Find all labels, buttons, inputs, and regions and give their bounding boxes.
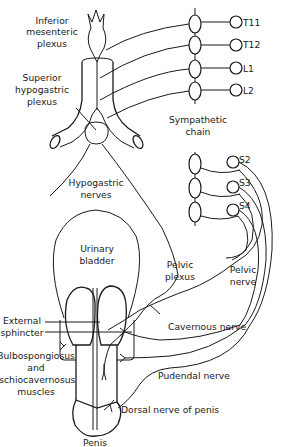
label-L1: L1 <box>243 63 254 74</box>
label-T11: T11 <box>242 17 260 28</box>
sympathetic-chain-upper <box>100 8 242 118</box>
label-urinary-bladder-1: Urinary <box>80 243 114 254</box>
label-bulbospongiosus-4: muscles <box>17 386 55 397</box>
label-bulbospongiosus-2: and <box>27 362 44 373</box>
label-hypogastric-nerves-2: nerves <box>80 189 111 200</box>
label-pelvic-nerve-1: Pelvic <box>230 264 256 275</box>
label-sympathetic-chain-2: chain <box>186 126 211 137</box>
label-bulbospongiosus-1: Bulbospongiosus <box>0 350 75 361</box>
pelvic-plexus-and-nerves <box>104 262 250 408</box>
label-S2: S2 <box>239 154 251 165</box>
label-inferior-mesenteric-plexus-2: mesenteric <box>26 26 78 37</box>
label-inferior-mesenteric-plexus-1: Inferior <box>35 15 68 26</box>
label-urinary-bladder-2: bladder <box>79 255 114 266</box>
labels: Inferior mesenteric plexus Superior hypo… <box>0 15 260 447</box>
label-pelvic-plexus-2: plexus <box>165 271 195 282</box>
label-superior-hypogastric-plexus-1: Superior <box>23 72 62 83</box>
label-bulbospongiosus-3: ischiocavernosus <box>0 374 76 385</box>
label-sympathetic-chain-1: Sympathetic <box>169 114 227 125</box>
label-hypogastric-nerves-1: Hypogastric <box>68 177 123 188</box>
label-S4: S4 <box>239 200 251 211</box>
label-L2: L2 <box>243 85 254 96</box>
inferior-mesenteric-plexus-shape <box>88 10 106 62</box>
label-pudendal-nerve: Pudendal nerve <box>158 370 230 381</box>
label-superior-hypogastric-plexus-2: hypogastric <box>15 84 69 95</box>
label-external-sphincter-2: sphincter <box>1 327 44 338</box>
label-pelvic-plexus-1: Pelvic <box>167 259 193 270</box>
pelvic-innervation-diagram: Inferior mesenteric plexus Superior hypo… <box>0 0 286 447</box>
aorta-and-iliac-vessels <box>48 58 145 150</box>
label-dorsal-nerve-of-penis: Dorsal nerve of penis <box>121 404 219 415</box>
label-S3: S3 <box>239 177 251 188</box>
label-T12: T12 <box>242 39 260 50</box>
label-cavernous-nerve: Cavernous nerve <box>168 321 246 332</box>
label-inferior-mesenteric-plexus-3: plexus <box>37 38 67 49</box>
sympathetic-chain-sacral <box>189 152 272 325</box>
label-penis: Penis <box>83 437 107 447</box>
label-pelvic-nerve-2: nerve <box>230 276 257 287</box>
label-external-sphincter-1: External <box>3 315 41 326</box>
label-superior-hypogastric-plexus-3: plexus <box>27 96 57 107</box>
